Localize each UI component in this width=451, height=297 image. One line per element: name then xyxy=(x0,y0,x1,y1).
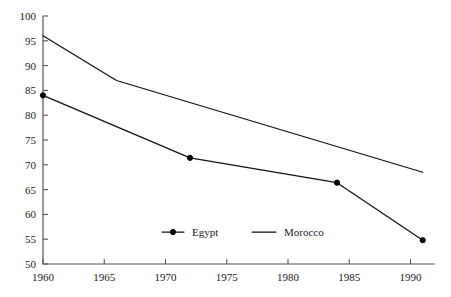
x-tick-label: 1965 xyxy=(93,271,116,283)
y-tick-label: 85 xyxy=(25,84,37,96)
data-point-marker xyxy=(187,155,192,160)
line-chart: 50556065707580859095100 1960196519701975… xyxy=(0,0,451,297)
legend-label-morocco: Morocco xyxy=(284,226,324,238)
y-tick-label: 70 xyxy=(25,159,37,171)
y-tick-label: 95 xyxy=(25,35,37,47)
chart-axes xyxy=(43,16,435,264)
y-tick-label: 60 xyxy=(25,208,37,220)
y-tick-label: 100 xyxy=(20,10,37,22)
axis-tick-marks xyxy=(43,16,411,264)
series-morocco xyxy=(43,36,423,172)
data-series-group xyxy=(40,36,425,243)
data-point-marker xyxy=(40,93,45,98)
series-line-morocco xyxy=(43,36,423,172)
x-axis-tick-labels: 1960196519701975198019851990 xyxy=(32,271,422,283)
chart-legend: EgyptMorocco xyxy=(162,226,324,238)
y-tick-label: 75 xyxy=(25,134,37,146)
axis-lines xyxy=(43,16,435,264)
legend-marker-egypt xyxy=(170,229,175,234)
chart-container: 50556065707580859095100 1960196519701975… xyxy=(0,0,451,297)
y-tick-label: 55 xyxy=(25,233,37,245)
y-axis-tick-labels: 50556065707580859095100 xyxy=(20,10,37,270)
x-tick-label: 1980 xyxy=(277,271,300,283)
y-tick-label: 65 xyxy=(25,184,37,196)
y-tick-label: 50 xyxy=(25,258,37,270)
x-tick-label: 1975 xyxy=(216,271,239,283)
legend-label-egypt: Egypt xyxy=(192,226,218,238)
data-point-marker xyxy=(420,238,425,243)
y-tick-label: 80 xyxy=(25,109,37,121)
x-tick-label: 1985 xyxy=(338,271,361,283)
y-tick-label: 90 xyxy=(25,60,37,72)
x-tick-label: 1970 xyxy=(155,271,178,283)
series-line-egypt xyxy=(43,95,423,240)
data-point-marker xyxy=(334,180,339,185)
x-tick-label: 1960 xyxy=(32,271,55,283)
x-tick-label: 1990 xyxy=(400,271,423,283)
